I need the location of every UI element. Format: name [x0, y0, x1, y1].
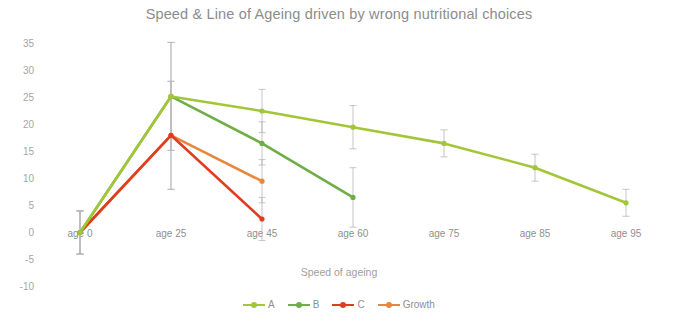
- legend-dot-swatch: [251, 302, 257, 308]
- chart-container: Speed & Line of Ageing driven by wrong n…: [0, 0, 678, 321]
- legend-marker-icon: [243, 300, 265, 309]
- series-line: [80, 96, 353, 232]
- data-point-marker: [168, 94, 173, 99]
- legend-dot-swatch: [296, 302, 302, 308]
- legend-dot-swatch: [386, 302, 392, 308]
- legend-item-c[interactable]: C: [332, 299, 364, 310]
- series-b: [77, 94, 355, 235]
- legend-item-label: Growth: [403, 299, 435, 310]
- data-point-marker: [350, 125, 355, 130]
- legend-item-label: B: [313, 299, 320, 310]
- data-point-marker: [259, 179, 264, 184]
- legend-marker-icon: [332, 300, 354, 309]
- data-point-marker: [532, 165, 537, 170]
- data-point-marker: [168, 133, 173, 138]
- legend-item-a[interactable]: A: [243, 299, 275, 310]
- data-point-marker: [259, 108, 264, 113]
- data-point-marker: [259, 216, 264, 221]
- legend-marker-icon: [378, 300, 400, 309]
- legend-item-growth[interactable]: Growth: [378, 299, 435, 310]
- data-point-marker: [259, 141, 264, 146]
- legend-item-label: C: [357, 299, 364, 310]
- legend-item-b[interactable]: B: [288, 299, 320, 310]
- data-point-marker: [623, 200, 628, 205]
- data-point-marker: [350, 195, 355, 200]
- data-point-marker: [441, 141, 446, 146]
- legend-marker-icon: [288, 300, 310, 309]
- legend-item-label: A: [268, 299, 275, 310]
- legend-dot-swatch: [340, 302, 346, 308]
- x-axis-title: Speed of ageing: [0, 266, 678, 278]
- chart-legend: ABCGrowth: [0, 299, 678, 310]
- data-point-marker: [77, 230, 82, 235]
